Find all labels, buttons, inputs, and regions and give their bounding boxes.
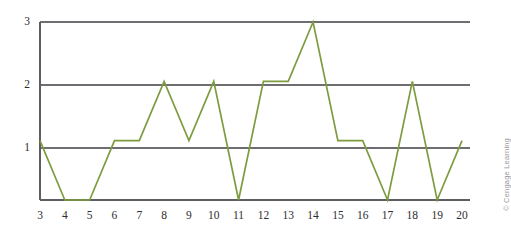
x-tick-label-3: 3 bbox=[29, 210, 51, 222]
y-tick-label-1: 1 bbox=[16, 142, 30, 154]
y-tick-label-2: 2 bbox=[16, 79, 30, 91]
x-tick-label-16: 16 bbox=[352, 210, 374, 222]
x-tick-label-7: 7 bbox=[128, 210, 150, 222]
x-tick-label-17: 17 bbox=[377, 210, 399, 222]
x-tick-label-6: 6 bbox=[103, 210, 125, 222]
x-tick-label-19: 19 bbox=[426, 210, 448, 222]
x-tick-label-4: 4 bbox=[54, 210, 76, 222]
x-tick-label-20: 20 bbox=[451, 210, 473, 222]
x-tick-label-10: 10 bbox=[203, 210, 225, 222]
x-tick-label-15: 15 bbox=[327, 210, 349, 222]
x-tick-label-14: 14 bbox=[302, 210, 324, 222]
y-tick-label-3: 3 bbox=[16, 16, 30, 28]
copyright-credit: © Cengage Learning bbox=[502, 138, 511, 211]
x-tick-label-8: 8 bbox=[153, 210, 175, 222]
x-tick-label-11: 11 bbox=[228, 210, 250, 222]
x-tick-label-18: 18 bbox=[401, 210, 423, 222]
x-tick-label-12: 12 bbox=[252, 210, 274, 222]
x-tick-label-9: 9 bbox=[178, 210, 200, 222]
data-series-line bbox=[40, 22, 462, 200]
x-tick-label-13: 13 bbox=[277, 210, 299, 222]
x-tick-label-5: 5 bbox=[79, 210, 101, 222]
